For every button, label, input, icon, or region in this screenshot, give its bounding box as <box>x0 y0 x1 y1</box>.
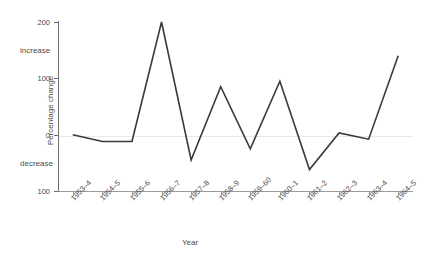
y-axis-direction-label: increase <box>20 46 50 55</box>
data-series-line <box>58 22 413 191</box>
line-chart: Percentage change 2001000100 increasedec… <box>0 0 429 259</box>
y-tick-label: 200 <box>37 18 50 27</box>
y-tick <box>54 191 58 192</box>
y-tick-label: 100 <box>37 74 50 83</box>
y-tick-label: 0 <box>46 130 50 139</box>
plot-area <box>58 22 413 191</box>
y-axis-direction-label: decrease <box>20 158 53 167</box>
x-axis-title: Year <box>182 238 198 247</box>
y-tick-label: 100 <box>37 187 50 196</box>
